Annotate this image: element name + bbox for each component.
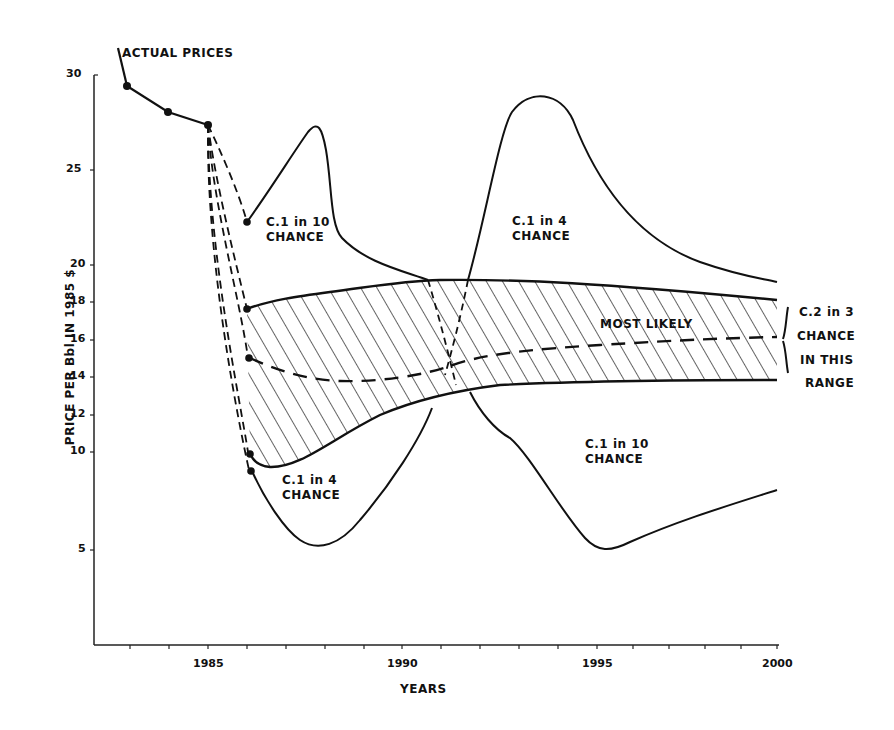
- y-axis-label: PRICE PER Bbl IN 1985 $: [63, 237, 77, 477]
- x-tick-1995: 1995: [582, 657, 613, 670]
- chart-canvas: [0, 0, 894, 730]
- range-label-line1: C.2 in 3: [799, 305, 854, 320]
- transition-dashes: [208, 125, 249, 470]
- y-axis: [90, 75, 98, 645]
- hi-1in4-label-line2: CHANCE: [512, 229, 570, 244]
- x-axis: [94, 645, 779, 649]
- range-label-line3: IN THIS: [800, 353, 854, 368]
- lo-1in10-label-line2: CHANCE: [585, 452, 643, 467]
- y-tick-12: 12: [70, 407, 85, 420]
- hi-1in4-label-line1: C.1 in 4: [512, 214, 567, 229]
- lo-1in4-label-line2: CHANCE: [282, 488, 340, 503]
- hi-1in10-label-line2: CHANCE: [266, 230, 324, 245]
- range-label-line4: RANGE: [805, 376, 854, 391]
- y-tick-5: 5: [78, 542, 86, 555]
- y-tick-25: 25: [66, 162, 81, 175]
- x-axis-label: YEARS: [400, 682, 447, 697]
- lo-1in4-label-line1: C.1 in 4: [282, 473, 337, 488]
- x-tick-1985: 1985: [193, 657, 224, 670]
- y-tick-18: 18: [70, 294, 85, 307]
- x-tick-2000: 2000: [762, 657, 793, 670]
- hi-1in4-curve: [468, 96, 777, 282]
- y-tick-14: 14: [70, 369, 85, 382]
- x-tick-1990: 1990: [387, 657, 418, 670]
- hi-1in10-curve: [247, 126, 428, 280]
- y-tick-10: 10: [70, 444, 85, 457]
- range-label-line2: CHANCE: [797, 329, 855, 344]
- actual-prices-label: ACTUAL PRICES: [122, 46, 233, 61]
- y-tick-30: 30: [66, 67, 81, 80]
- hi-1in10-label-line1: C.1 in 10: [266, 215, 330, 230]
- most-likely-label: MOST LIKELY: [600, 317, 693, 332]
- y-tick-16: 16: [70, 332, 85, 345]
- lo-1in10-label-line1: C.1 in 10: [585, 437, 649, 452]
- y-tick-20: 20: [70, 257, 85, 270]
- lo-1in10-curve: [470, 392, 777, 549]
- range-bracket: [783, 307, 788, 373]
